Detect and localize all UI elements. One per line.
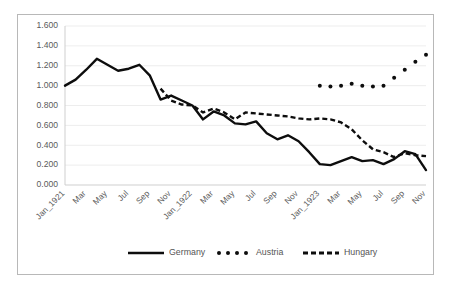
- data-point: [328, 85, 332, 89]
- y-axis-tick-label: 1.200: [36, 60, 58, 70]
- x-axis-tick-label: Mar: [198, 188, 215, 205]
- series-austria: [318, 48, 433, 89]
- y-axis-tick-label: 0.600: [36, 120, 58, 130]
- y-axis-tick-labels: 0.0000.2000.4000.6000.8001.0001.2001.400…: [36, 20, 58, 189]
- legend-label: Austria: [256, 247, 283, 257]
- x-axis-tick-label: May: [218, 188, 237, 207]
- y-axis-tick-label: 1.000: [36, 80, 58, 90]
- data-point: [360, 84, 364, 88]
- legend-item-austria[interactable]: Austria: [217, 247, 283, 257]
- chart-container: 0.0000.2000.4000.6000.8001.0001.2001.400…: [0, 0, 452, 292]
- x-axis-tick-label: Mar: [325, 188, 342, 205]
- data-point: [424, 53, 428, 57]
- legend-swatch-dotted: [226, 251, 230, 255]
- x-axis-tick-label: Jul: [370, 188, 385, 203]
- x-axis-tick-label: Sep: [261, 188, 279, 206]
- data-point: [339, 84, 343, 88]
- x-axis-tick-label: May: [91, 188, 110, 207]
- x-axis-tick-label: Jan_1921: [33, 188, 66, 221]
- x-axis-tick-label: Sep: [134, 188, 152, 206]
- x-axis-tick-label: May: [345, 188, 364, 207]
- data-point: [382, 84, 386, 88]
- y-axis-tick-label: 0.200: [36, 159, 58, 169]
- legend-item-germany[interactable]: Germany: [128, 247, 206, 257]
- legend-swatch-dotted: [235, 251, 239, 255]
- x-axis-tick-label: Nov: [282, 188, 300, 206]
- legend-label: Germany: [169, 247, 206, 257]
- data-point: [413, 60, 417, 64]
- x-axis-tick-label: Mar: [70, 188, 87, 205]
- chart-svg: 0.0000.2000.4000.6000.8001.0001.2001.400…: [18, 15, 433, 274]
- legend-item-hungary[interactable]: Hungary: [303, 247, 378, 257]
- data-point: [403, 68, 407, 72]
- data-point: [392, 76, 396, 80]
- legend-swatch-dotted: [244, 251, 248, 255]
- chart-plot-frame: 0.0000.2000.4000.6000.8001.0001.2001.400…: [17, 14, 434, 275]
- y-axis-tick-label: 0.800: [36, 100, 58, 110]
- x-axis-tick-label: Jul: [243, 188, 258, 203]
- legend-label: Hungary: [344, 247, 378, 257]
- y-axis-tick-label: 1.600: [36, 20, 58, 30]
- y-axis-tick-label: 1.400: [36, 40, 58, 50]
- data-point: [371, 85, 375, 89]
- x-axis-tick-labels: Jan_1921MarMayJulSepNovJan_1922MarMayJul…: [33, 188, 428, 222]
- series-germany: [65, 59, 426, 170]
- x-axis-tick-label: Nov: [155, 188, 173, 206]
- y-axis-tick-label: 0.400: [36, 140, 58, 150]
- chart-legend: GermanyAustriaHungary: [128, 247, 378, 257]
- legend-swatch-dotted: [217, 251, 221, 255]
- x-axis-tick-label: Nov: [410, 188, 428, 206]
- data-point: [350, 82, 354, 86]
- data-series-layer: [65, 48, 433, 170]
- x-axis-tick-label: Sep: [389, 188, 407, 206]
- series-hungary: [161, 89, 426, 158]
- x-axis-tick-label: Jul: [115, 188, 130, 203]
- data-point: [318, 84, 322, 88]
- y-axis-tick-label: 0.000: [36, 179, 58, 189]
